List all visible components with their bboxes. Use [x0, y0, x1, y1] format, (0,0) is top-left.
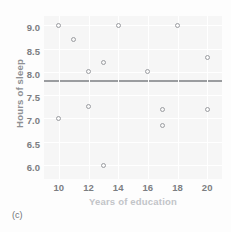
- x-tick-label: 12: [83, 182, 94, 193]
- data-point: [205, 107, 210, 112]
- data-point: [116, 23, 121, 28]
- x-tick-label: 14: [113, 182, 124, 193]
- gridline-horizontal: [44, 142, 222, 143]
- y-axis-tick-labels: 6.06.57.07.58.08.59.0: [12, 18, 40, 178]
- data-point: [205, 55, 210, 60]
- gridline-vertical: [118, 16, 119, 179]
- data-point: [160, 123, 165, 128]
- plot-panel: [44, 16, 222, 179]
- data-point: [145, 69, 150, 74]
- x-tick-label: 10: [54, 182, 65, 193]
- data-point: [86, 104, 91, 109]
- gridline-vertical: [59, 16, 60, 179]
- gridline-horizontal: [44, 118, 222, 119]
- y-tick-label: 8.5: [12, 45, 40, 56]
- data-point: [101, 163, 106, 168]
- scatter-plot-figure: Hours of sleep 6.06.57.07.58.08.59.0 101…: [0, 0, 231, 232]
- data-point: [56, 116, 61, 121]
- y-tick-label: 6.5: [12, 138, 40, 149]
- gridline-vertical: [207, 16, 208, 179]
- fit-line: [44, 80, 222, 82]
- y-tick-label: 7.0: [12, 115, 40, 126]
- data-point: [160, 107, 165, 112]
- y-tick-label: 8.0: [12, 68, 40, 79]
- gridline-horizontal: [44, 95, 222, 96]
- data-point: [56, 23, 61, 28]
- x-axis-title: Years of education: [44, 196, 222, 207]
- y-tick-label: 9.0: [12, 22, 40, 33]
- data-point: [101, 60, 106, 65]
- gridline-horizontal: [44, 49, 222, 50]
- x-axis-tick-labels: 101214161820: [44, 182, 222, 196]
- data-point: [175, 23, 180, 28]
- data-point: [71, 37, 76, 42]
- gridline-horizontal: [44, 25, 222, 26]
- x-tick-label: 16: [143, 182, 154, 193]
- y-tick-label: 7.5: [12, 92, 40, 103]
- gridline-horizontal: [44, 72, 222, 73]
- gridline-horizontal: [44, 165, 222, 166]
- gridline-vertical: [89, 16, 90, 179]
- x-tick-label: 20: [202, 182, 213, 193]
- gridline-vertical: [178, 16, 179, 179]
- figure-caption: (c): [12, 210, 23, 220]
- x-tick-label: 18: [172, 182, 183, 193]
- gridline-vertical: [148, 16, 149, 179]
- data-point: [86, 69, 91, 74]
- y-tick-label: 6.0: [12, 162, 40, 173]
